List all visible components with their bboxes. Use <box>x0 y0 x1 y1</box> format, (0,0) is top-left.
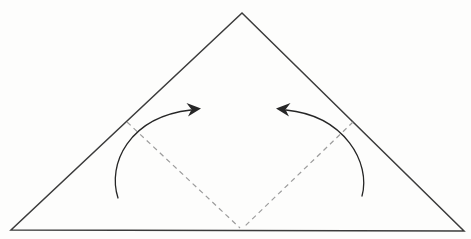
right-valley-fold-line <box>243 122 353 228</box>
paper-triangle-outline <box>11 13 464 231</box>
left-valley-fold-line <box>127 122 240 228</box>
left-fold-arrow <box>115 110 191 198</box>
origami-fold-diagram <box>0 0 471 239</box>
origami-diagram-canvas <box>0 0 471 239</box>
